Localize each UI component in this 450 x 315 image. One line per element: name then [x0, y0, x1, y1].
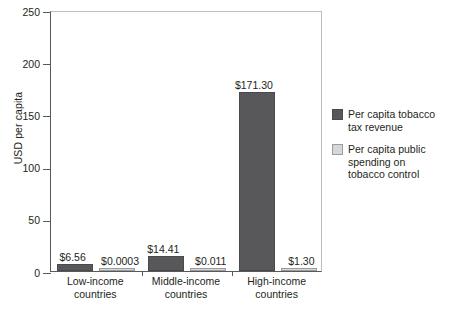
y-axis-tick-label: 150	[22, 110, 40, 122]
bar: $171.30	[239, 92, 275, 271]
legend-swatch-icon	[332, 144, 343, 155]
y-axis-tick: 0	[43, 273, 51, 274]
x-axis-category-label: Low-incomecountries	[50, 275, 141, 300]
bar-value-label: $0.011	[195, 255, 226, 267]
category-label-line: High-income	[231, 275, 322, 288]
x-axis-category-label: Middle-incomecountries	[141, 275, 232, 300]
bar: $6.56	[57, 264, 93, 271]
category-label-line: countries	[50, 288, 141, 301]
legend-label-line: tobacco control	[348, 168, 426, 181]
legend-swatch-icon	[332, 109, 343, 120]
bar: $1.30	[281, 268, 317, 271]
legend-item[interactable]: Per capita publicspending ontobacco cont…	[332, 143, 448, 181]
y-axis-tick-label: 50	[28, 214, 40, 226]
bar-value-label: $0.0003	[101, 255, 139, 267]
y-axis-tick-label: 200	[22, 58, 40, 70]
y-axis-tick: 200	[43, 64, 51, 65]
y-axis-tick: 100	[43, 169, 51, 170]
legend-label-line: Per capita tobacco	[348, 108, 435, 121]
chart-figure: USD per capita 050100150200250 $6.56$0.0…	[0, 0, 450, 315]
bar-value-label: $14.41	[147, 243, 179, 255]
y-axis-tick-label: 100	[22, 162, 40, 174]
y-axis-tick-label: 250	[22, 6, 40, 18]
legend-label-line: tax revenue	[348, 121, 435, 134]
category-label-line: countries	[231, 288, 322, 301]
legend-label-line: Per capita public	[348, 143, 426, 156]
x-axis-category-label: High-incomecountries	[231, 275, 322, 300]
bar-value-label: $1.30	[288, 255, 314, 267]
legend-label: Per capita publicspending ontobacco cont…	[348, 143, 426, 181]
bar-value-label: $6.56	[59, 251, 85, 263]
y-axis-tick: 250	[43, 12, 51, 13]
bar: $0.0003	[99, 268, 135, 271]
y-axis-tick: 50	[43, 221, 51, 222]
chart-legend: Per capita tobaccotax revenuePer capita …	[332, 108, 448, 191]
category-label-line: countries	[141, 288, 232, 301]
category-label-line: Low-income	[50, 275, 141, 288]
y-axis-tick: 150	[43, 116, 51, 117]
legend-label: Per capita tobaccotax revenue	[348, 108, 435, 133]
bar-value-label: $171.30	[235, 79, 273, 91]
legend-label-line: spending on	[348, 156, 426, 169]
category-label-line: Middle-income	[141, 275, 232, 288]
plot-area: 050100150200250 $6.56$0.0003$14.41$0.011…	[50, 11, 322, 272]
bar: $0.011	[190, 268, 226, 271]
legend-item[interactable]: Per capita tobaccotax revenue	[332, 108, 448, 133]
y-axis-tick-label: 0	[34, 267, 40, 279]
bar: $14.41	[148, 256, 184, 271]
